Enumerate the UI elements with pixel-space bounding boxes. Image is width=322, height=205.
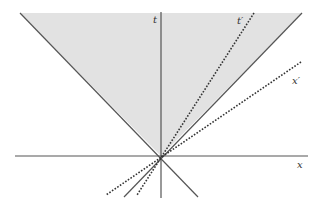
spacetime-diagram: t x t′ x′ xyxy=(0,0,322,205)
x-axis-label: x xyxy=(297,159,303,170)
t-prime-axis-label: t′ xyxy=(237,15,244,26)
x-prime-axis-label: x′ xyxy=(292,75,301,86)
